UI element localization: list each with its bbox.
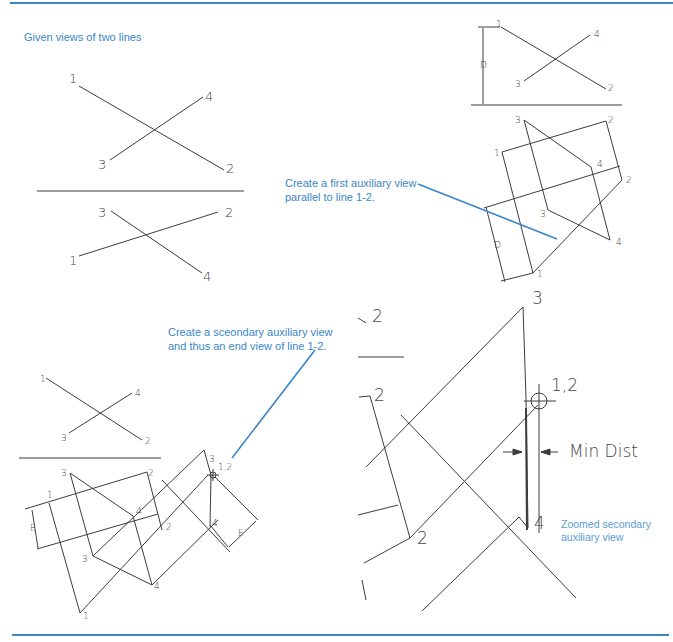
label-3a: 3 [61,469,67,478]
label-front-3: 3 [98,206,106,219]
label-front-2: 2 [225,206,233,219]
caption-given-views: Given views of two lines [24,30,141,44]
second-aux-drawing [19,378,258,613]
drawing-canvas [0,0,673,642]
zoomed-view-drawing [358,307,576,611]
label-1: 1 [496,20,502,29]
label-4b: 4 [616,238,622,247]
label-front-4: 4 [203,270,211,283]
label-3b: 3 [82,555,88,564]
caption-zoomed: Zoomed secondary auxiliary view [561,518,651,544]
label-1a: 1 [494,149,500,158]
top-line-3-4 [110,97,203,160]
label-4: 4 [534,515,545,532]
label-2b: 2 [626,176,632,185]
label-min-dist: Min Dist [569,443,638,460]
label-4c: 4 [212,519,218,528]
label-2-mid: 2 [374,387,385,404]
label-1b: 1 [537,270,543,279]
label-4a: 4 [136,507,142,516]
label-dim-e-right: E [238,529,244,538]
label-top-3: 3 [98,158,106,171]
label-1: 1 [40,375,46,384]
label-3b: 3 [540,210,546,219]
caption-second-aux-line1: Create a sceondary auxiliary view [168,325,332,339]
label-3c: 3 [209,455,215,464]
caption-first-aux: Create a first auxiliary view parallel t… [285,176,416,204]
label-3: 3 [515,80,521,89]
label-top-4: 4 [205,90,213,103]
label-3: 3 [532,290,543,307]
label-2-low: 2 [417,530,428,547]
label-12: 1,2 [218,463,232,472]
label-dim-d-top: D [480,61,487,70]
label-2: 2 [145,437,151,446]
label-4a: 4 [597,160,603,169]
caption-zoomed-line2: auxiliary view [561,531,651,544]
label-3a: 3 [515,116,521,125]
label-4: 4 [135,389,141,398]
label-4: 4 [594,30,600,39]
caption-second-aux-line2: and thus an end view of line 1-2. [168,339,332,353]
label-dim-d-aux: D [494,241,501,250]
label-4b: 4 [154,582,160,591]
label-3: 3 [61,434,67,443]
label-2: 2 [608,84,614,93]
label-dim-e-left: E [30,524,36,533]
label-2-top: 2 [372,308,383,325]
second-aux-leader [232,350,315,458]
label-top-2: 2 [226,162,234,175]
caption-zoomed-line1: Zoomed secondary [561,518,651,531]
caption-second-aux: Create a sceondary auxiliary view and th… [168,325,332,353]
label-1a: 1 [47,491,53,500]
label-1b: 1 [83,612,89,621]
caption-first-aux-line1: Create a first auxiliary view [285,176,416,190]
label-2a: 2 [148,469,154,478]
label-12: 1,2 [551,377,578,394]
label-top-1: 1 [69,72,77,85]
given-views-drawing [37,86,244,273]
label-front-1: 1 [69,254,77,267]
caption-first-aux-line2: parallel to line 1-2. [285,190,416,204]
label-2b: 2 [166,523,172,532]
label-2a: 2 [608,116,614,125]
